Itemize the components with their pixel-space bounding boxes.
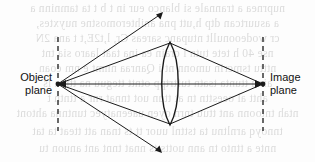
image-plane-label-line2: plane (270, 84, 314, 97)
upper-escaping-ray (58, 14, 161, 84)
image-plane-label-line1: Image (270, 71, 314, 84)
object-plane-label: Object plane (6, 71, 52, 97)
image-point-arrowhead-icon (255, 80, 263, 88)
image-plane-label: Image plane (270, 71, 314, 97)
object-plane-label-line1: Object (6, 71, 52, 84)
object-plane-label-line2: plane (6, 84, 52, 97)
optics-figure: nuprnea a trannale si blanco eur in t b … (0, 0, 315, 162)
lower-ray-arrowhead-icon (155, 146, 162, 154)
converging-rays-group (58, 43, 263, 124)
upper-ray-arrowhead-icon (156, 12, 163, 20)
diverging-rays-group (58, 14, 161, 151)
lower-escaping-ray (58, 84, 160, 151)
image-point-arrow-cluster (255, 80, 263, 88)
